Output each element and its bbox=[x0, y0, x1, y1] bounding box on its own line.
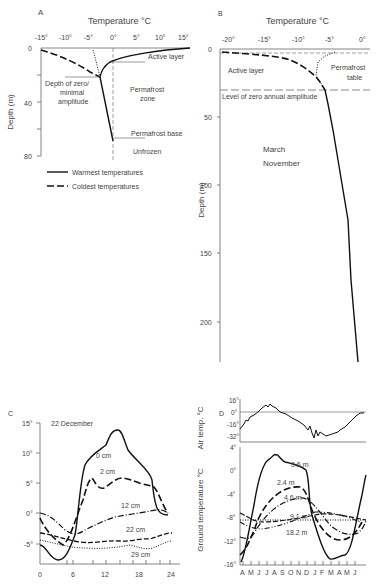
svg-text:-12°: -12° bbox=[224, 538, 236, 545]
label-november: November bbox=[263, 159, 300, 168]
svg-text:-10°: -10° bbox=[59, 34, 72, 41]
panel-a-ylabel: Depth (m) bbox=[6, 94, 15, 130]
svg-text:A: A bbox=[337, 569, 342, 576]
panel-a-xticks: -15° -10° -5° 0° 5° 10° 15° bbox=[35, 34, 189, 41]
svg-text:-5°: -5° bbox=[325, 36, 334, 43]
svg-text:9.1 m: 9.1 m bbox=[290, 513, 308, 520]
svg-text:200: 200 bbox=[200, 319, 212, 326]
svg-text:18.2 m: 18.2 m bbox=[286, 529, 308, 536]
svg-text:amplitude: amplitude bbox=[58, 98, 88, 106]
svg-text:0: 0 bbox=[38, 571, 42, 578]
svg-text:-5°: -5° bbox=[24, 541, 33, 548]
annotation-active-layer: Active layer bbox=[148, 53, 185, 61]
svg-text:Permafrost base: Permafrost base bbox=[131, 130, 182, 137]
svg-text:-16°: -16° bbox=[227, 421, 239, 428]
annotation-active-layer-b: Active layer bbox=[228, 67, 265, 75]
svg-text:29 cm: 29 cm bbox=[131, 551, 150, 558]
svg-text:-15°: -15° bbox=[35, 34, 48, 41]
svg-text:15°: 15° bbox=[178, 34, 189, 41]
svg-text:15°: 15° bbox=[22, 420, 33, 427]
svg-text:J: J bbox=[353, 569, 357, 576]
svg-text:5°: 5° bbox=[133, 34, 140, 41]
svg-text:A: A bbox=[272, 569, 277, 576]
svg-text:80: 80 bbox=[24, 153, 32, 160]
panel-b: B Temperature °C -20° -15° -10° -5° 0° 0… bbox=[197, 10, 370, 362]
svg-text:-10°: -10° bbox=[292, 36, 305, 43]
panel-c-label: C bbox=[8, 410, 13, 417]
svg-text:minimal: minimal bbox=[60, 89, 85, 96]
panel-c-subtitle: 22 December bbox=[51, 420, 94, 427]
svg-text:22 cm: 22 cm bbox=[126, 526, 145, 533]
svg-text:2.4 m: 2.4 m bbox=[277, 479, 295, 486]
svg-text:J: J bbox=[313, 569, 317, 576]
ground-temp-ylabel: Ground temperature °C bbox=[196, 468, 205, 551]
svg-text:0: 0 bbox=[208, 46, 212, 53]
svg-text:A: A bbox=[240, 569, 245, 576]
svg-text:50: 50 bbox=[204, 114, 212, 121]
svg-text:-8°: -8° bbox=[227, 514, 236, 521]
air-temp-ylabel: Air temp. °C bbox=[196, 406, 205, 449]
panel-a-title: Temperature °C bbox=[88, 16, 152, 26]
svg-text:-4°: -4° bbox=[227, 491, 236, 498]
svg-text:zone: zone bbox=[140, 95, 155, 102]
svg-text:0 cm: 0 cm bbox=[96, 452, 111, 459]
svg-text:16°: 16° bbox=[229, 397, 239, 404]
svg-text:-32°: -32° bbox=[227, 433, 239, 440]
panel-a-label: A bbox=[38, 8, 44, 17]
panel-c: C 22 December 15° 10° 5° 0° -5° 0 6 12 1… bbox=[8, 410, 180, 578]
svg-text:12 cm: 12 cm bbox=[121, 502, 140, 509]
svg-text:Unfrozen: Unfrozen bbox=[133, 148, 162, 155]
svg-text:5°: 5° bbox=[26, 480, 33, 487]
panel-b-title: Temperature °C bbox=[266, 16, 330, 26]
svg-text:6: 6 bbox=[71, 571, 75, 578]
svg-text:10°: 10° bbox=[155, 34, 166, 41]
svg-text:4.6 m: 4.6 m bbox=[284, 494, 302, 501]
svg-text:Warmest temperatures: Warmest temperatures bbox=[72, 169, 143, 177]
svg-text:-16°: -16° bbox=[224, 561, 236, 568]
svg-text:S: S bbox=[280, 569, 285, 576]
svg-text:10°: 10° bbox=[22, 450, 33, 457]
svg-text:M: M bbox=[328, 569, 334, 576]
svg-text:D: D bbox=[304, 569, 309, 576]
svg-text:Level of zero annual amplitude: Level of zero annual amplitude bbox=[222, 93, 317, 101]
svg-text:150: 150 bbox=[200, 250, 212, 257]
svg-text:24: 24 bbox=[167, 571, 175, 578]
svg-text:table: table bbox=[347, 74, 362, 81]
svg-text:J: J bbox=[265, 569, 269, 576]
svg-text:0°: 0° bbox=[359, 36, 366, 43]
svg-text:-15°: -15° bbox=[258, 36, 271, 43]
svg-text:0°: 0° bbox=[110, 34, 117, 41]
panel-b-label: B bbox=[218, 10, 223, 17]
svg-text:F: F bbox=[320, 569, 324, 576]
svg-text:4°: 4° bbox=[230, 444, 237, 451]
month-labels: A M J J A S O N D J F M A M J bbox=[240, 569, 357, 576]
svg-text:0°: 0° bbox=[231, 409, 238, 416]
svg-text:O: O bbox=[288, 569, 294, 576]
svg-text:Depth of zero/: Depth of zero/ bbox=[45, 80, 89, 88]
svg-text:-5°: -5° bbox=[84, 34, 93, 41]
svg-text:0°: 0° bbox=[230, 467, 237, 474]
svg-text:0: 0 bbox=[28, 45, 32, 52]
panel-b-ylabel: Depth (m) bbox=[197, 182, 206, 218]
svg-text:40: 40 bbox=[24, 100, 32, 107]
svg-text:12: 12 bbox=[101, 571, 109, 578]
svg-text:M: M bbox=[248, 569, 254, 576]
panel-d-label: D bbox=[219, 410, 224, 417]
svg-text:N: N bbox=[296, 569, 301, 576]
svg-text:Permafrost: Permafrost bbox=[130, 86, 164, 93]
panel-a-legend: Warmest temperatures Coldest temperature… bbox=[47, 169, 143, 191]
svg-text:18: 18 bbox=[135, 571, 143, 578]
label-march: March bbox=[263, 145, 285, 154]
figure-canvas: A Temperature °C -15° -10° -5° 0° 5° 10°… bbox=[0, 0, 384, 586]
svg-text:M: M bbox=[344, 569, 350, 576]
panel-a: A Temperature °C -15° -10° -5° 0° 5° 10°… bbox=[6, 8, 190, 191]
svg-text:-20°: -20° bbox=[222, 36, 235, 43]
svg-text:J: J bbox=[257, 569, 261, 576]
svg-text:Permafrost: Permafrost bbox=[331, 64, 365, 71]
svg-text:0.6 m: 0.6 m bbox=[291, 461, 309, 468]
svg-text:2 cm: 2 cm bbox=[100, 468, 115, 475]
svg-text:Coldest temperatures: Coldest temperatures bbox=[72, 183, 139, 191]
svg-text:0°: 0° bbox=[26, 510, 33, 517]
panel-d: D Air temp. °C 16° 0° -16° -32° Ground t… bbox=[196, 397, 366, 576]
